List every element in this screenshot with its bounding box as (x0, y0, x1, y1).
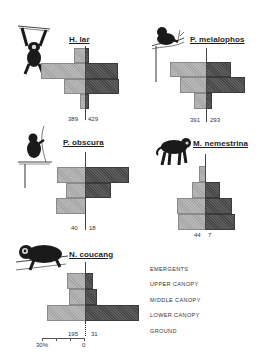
bar-middle-right (86, 183, 111, 198)
bar-middle-right (86, 289, 97, 305)
bar-middle-left (192, 182, 205, 198)
panel-title: N. coucang (69, 250, 113, 259)
bar-upper-right (86, 167, 129, 183)
bar-lower-left (47, 305, 85, 321)
right-count: 18 (89, 225, 96, 231)
right-count: 293 (210, 117, 220, 123)
panel-title: P. obscura (63, 138, 104, 147)
bar-middle-left (64, 79, 85, 94)
scale-label-0: 0 (82, 342, 85, 348)
bar-emergents-left (74, 48, 85, 63)
bar-upper-right (207, 62, 231, 77)
right-count: 31 (91, 331, 98, 337)
bar-lower-right (206, 198, 232, 214)
bar-middle-left (180, 77, 206, 93)
bar-lower-right (86, 94, 89, 109)
macaque-walking-icon (154, 135, 192, 167)
bar-upper-right (86, 273, 93, 289)
scale-label-30: 30% (36, 342, 48, 348)
left-count: 389 (68, 116, 78, 122)
panel-title: H. lar (69, 35, 90, 44)
bar-middle-left (69, 289, 85, 305)
axis-line-ground-dotted (85, 322, 87, 336)
scale-tick (84, 338, 85, 341)
scale-tick (70, 338, 71, 341)
bar-middle-right (86, 79, 119, 94)
scale-tick (42, 338, 43, 341)
bar-ground-right (206, 214, 235, 230)
legend-lower-canopy: LOWER CANOPY (150, 312, 200, 318)
bar-upper-left (41, 63, 85, 79)
legend-emergents: EMERGENTS (150, 266, 188, 272)
bar-middle-right (207, 77, 245, 93)
left-count: 40 (71, 225, 78, 231)
right-count: 7 (208, 232, 211, 238)
left-count: 391 (190, 117, 200, 123)
bar-upper-left (57, 167, 85, 183)
scale-tick (56, 338, 57, 341)
bar-lower-right (207, 93, 212, 109)
right-count: 429 (88, 116, 98, 122)
bar-ground-left (178, 214, 205, 230)
panel-title: M. nemestrina (193, 139, 248, 148)
langur-on-vine-icon (16, 126, 52, 188)
bar-emergents-right (86, 48, 89, 63)
legend-upper-canopy: UPPER CANOPY (150, 281, 199, 287)
bar-lower-left (80, 94, 85, 109)
scale-line (42, 338, 85, 339)
bar-upper-left (170, 62, 206, 77)
bar-middle-right (206, 182, 220, 198)
legend-middle-canopy: MIDDLE CANOPY (150, 297, 201, 303)
legend-ground: GROUND (150, 328, 177, 334)
bar-lower-left (56, 198, 85, 214)
bar-upper-left (67, 273, 85, 289)
bar-lower-left (194, 93, 206, 109)
slow-loris-on-branch-icon (14, 242, 68, 272)
bar-middle-left (66, 183, 85, 198)
left-count: 44 (194, 232, 201, 238)
panel-title: P. melalophos (190, 35, 245, 44)
bar-lower-left (177, 198, 205, 214)
left-count: 195 (68, 331, 78, 337)
bar-lower-right (86, 305, 139, 321)
bar-upper-left (199, 166, 205, 182)
bar-upper-right (86, 63, 118, 79)
